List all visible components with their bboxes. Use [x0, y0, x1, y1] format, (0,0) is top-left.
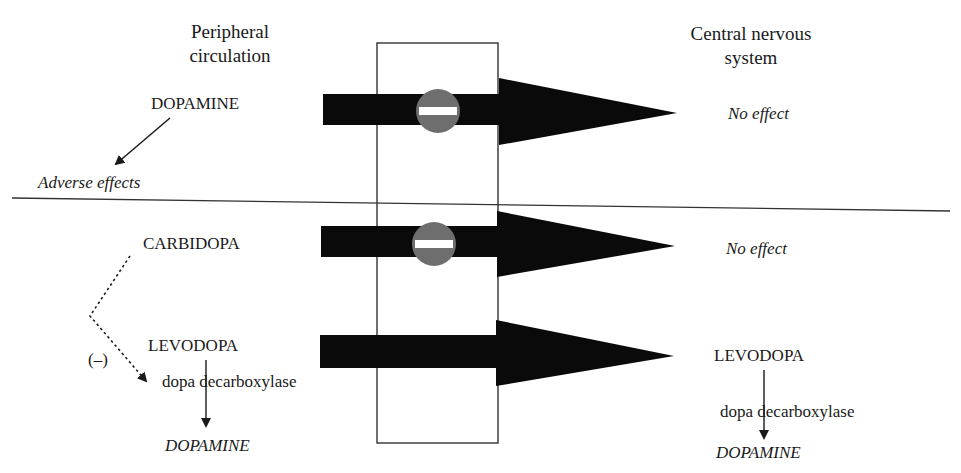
- adverse-effects-label: Adverse effects: [38, 172, 140, 193]
- central-header-line1: Central nervous: [666, 22, 836, 46]
- dopamine-transport-arrow: [323, 78, 677, 145]
- central-header-line2: system: [666, 46, 836, 70]
- no-effect-label-bottom: No effect: [726, 238, 787, 259]
- peripheral-header: Peripheral circulation: [160, 20, 300, 68]
- levodopa-transport-arrow: [320, 320, 674, 386]
- dopamine-label: DOPAMINE: [151, 93, 239, 114]
- no-entry-icon: [412, 222, 456, 266]
- left-enzyme-label: dopa decarboxylase: [162, 371, 297, 392]
- carbidopa-transport-arrow: [321, 211, 675, 277]
- central-header: Central nervous system: [666, 22, 836, 70]
- right-dopamine-product-label: DOPAMINE: [716, 442, 801, 463]
- peripheral-header-line1: Peripheral: [160, 20, 300, 44]
- inhibition-sign: (–): [88, 349, 108, 370]
- right-levodopa-label: LEVODOPA: [714, 345, 804, 366]
- left-levodopa-label: LEVODOPA: [148, 335, 238, 356]
- peripheral-header-line2: circulation: [160, 44, 300, 68]
- carbidopa-label: CARBIDOPA: [143, 233, 240, 254]
- right-enzyme-label: dopa decarboxylase: [720, 401, 855, 422]
- panel-divider-line: [12, 198, 950, 211]
- adverse-effects-arrow: [116, 118, 170, 164]
- no-effect-label-top: No effect: [728, 103, 789, 124]
- no-entry-icon: [416, 89, 460, 133]
- left-dopamine-product-label: DOPAMINE: [165, 435, 250, 456]
